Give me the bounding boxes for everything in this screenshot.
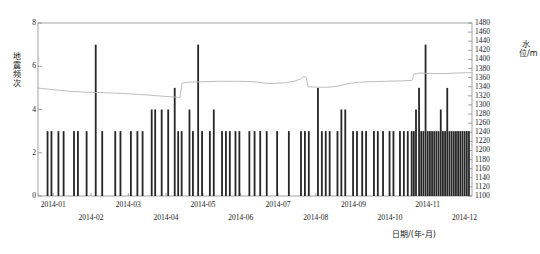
bar: [229, 131, 231, 196]
x-tick-label: 2014-09: [336, 200, 372, 209]
bar: [361, 131, 363, 196]
bar: [436, 131, 438, 196]
bar: [177, 131, 179, 196]
y-tick-label-right: 1220: [475, 136, 490, 145]
bar: [429, 131, 431, 196]
bar: [457, 131, 459, 196]
bar: [154, 110, 156, 197]
bar: [167, 110, 169, 197]
bar: [420, 131, 422, 196]
x-tick-label: 2014-10: [372, 213, 408, 222]
bar: [451, 131, 453, 196]
bar: [411, 131, 413, 196]
bar: [130, 131, 132, 196]
bar: [455, 131, 457, 196]
x-tick-label: 2014-11: [410, 200, 446, 209]
bar: [51, 131, 53, 196]
bar: [356, 131, 358, 196]
bar: [344, 110, 346, 197]
bar: [337, 131, 339, 196]
bar: [468, 131, 470, 196]
bar: [393, 131, 395, 196]
x-tick-label: 2014-03: [110, 200, 146, 209]
x-tick-label: 2014-02: [73, 213, 109, 222]
x-tick-label: 2014-06: [223, 213, 259, 222]
bar: [300, 131, 302, 196]
bar: [462, 131, 464, 196]
bar: [47, 131, 49, 196]
bar: [151, 110, 153, 197]
y-tick-label-right: 1340: [475, 82, 490, 91]
bar: [304, 131, 306, 196]
y-tick-label-right: 1160: [475, 164, 490, 173]
y-tick-label-right: 1320: [475, 91, 490, 100]
bar: [225, 131, 227, 196]
bar: [259, 131, 261, 196]
bar: [288, 131, 290, 196]
x-tick-label: 2014-04: [148, 213, 184, 222]
bar: [238, 131, 240, 196]
bar: [58, 131, 60, 196]
bar: [221, 131, 223, 196]
y-tick-label-right: 1360: [475, 73, 490, 82]
bar: [440, 110, 442, 197]
bar: [192, 131, 194, 196]
y-tick-label-left: 6: [27, 61, 36, 70]
y-tick-label-right: 1300: [475, 100, 490, 109]
y-tick-label-right: 1480: [475, 18, 490, 27]
y-tick-label-right: 1140: [475, 173, 490, 182]
bar: [433, 131, 435, 196]
bar: [276, 131, 278, 196]
bar: [459, 131, 461, 196]
bar: [254, 131, 256, 196]
bar: [209, 131, 211, 196]
bar: [120, 131, 122, 196]
bar: [418, 88, 420, 196]
bar: [101, 131, 103, 196]
y-tick-label-right: 1120: [475, 182, 490, 191]
bar: [95, 45, 97, 196]
bar: [161, 110, 163, 197]
bar: [235, 131, 237, 196]
y-tick-label-right: 1380: [475, 64, 490, 73]
bar: [181, 131, 183, 196]
bar: [399, 131, 401, 196]
bar: [317, 88, 319, 196]
bar: [201, 131, 203, 196]
y-tick-label-right: 1280: [475, 109, 490, 118]
bar: [321, 131, 323, 196]
x-tick-label: 2014-01: [35, 200, 71, 209]
bar: [189, 110, 191, 197]
y-tick-label-right: 1260: [475, 118, 490, 127]
bar: [142, 131, 144, 196]
bar: [453, 131, 455, 196]
y-tick-label-right: 1460: [475, 27, 490, 36]
x-tick-label: 2014-08: [298, 213, 334, 222]
bar: [446, 88, 448, 196]
y-tick-label-right: 1440: [475, 36, 490, 45]
bar: [340, 110, 342, 197]
bar: [365, 131, 367, 196]
bar: [266, 131, 268, 196]
bar: [174, 88, 176, 196]
y-tick-label-right: 1100: [475, 191, 490, 200]
bar: [382, 131, 384, 196]
bar: [213, 110, 215, 197]
bar: [197, 45, 199, 196]
y-tick-label-right: 1400: [475, 54, 490, 63]
bar: [403, 131, 405, 196]
bar: [442, 131, 444, 196]
y-tick-label-right: 1200: [475, 145, 490, 154]
bar: [136, 131, 138, 196]
bar: [431, 131, 433, 196]
bar: [73, 131, 75, 196]
water-level-line: [38, 73, 472, 98]
bar: [77, 131, 79, 196]
x-tick-label: 2014-07: [260, 200, 296, 209]
bar: [427, 131, 429, 196]
y-tick-label-left: 2: [27, 148, 36, 157]
bar: [444, 131, 446, 196]
bar: [308, 131, 310, 196]
bar: [389, 131, 391, 196]
bar: [422, 131, 424, 196]
